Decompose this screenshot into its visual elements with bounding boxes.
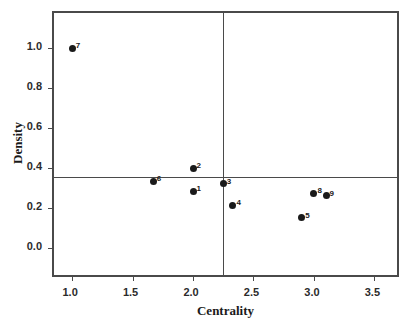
data-point-label-7: 7 [76, 42, 80, 50]
y-tick-0.6 [48, 128, 54, 129]
data-point-label-6: 6 [157, 175, 161, 183]
data-point-2 [190, 165, 197, 172]
data-point-label-3: 3 [227, 178, 231, 186]
data-point-label-4: 4 [236, 199, 240, 207]
scatter-plot-figure: 0.00.20.40.60.81.0 762134589 1.01.52.02.… [0, 0, 414, 334]
x-tick-2.0 [193, 275, 194, 281]
y-tick-label-1.0: 1.0 [8, 40, 42, 53]
data-point-label-5: 5 [305, 212, 309, 220]
x-axis-title: Centrality [52, 303, 399, 319]
data-point-4 [229, 202, 236, 209]
x-tick-1.0 [72, 275, 73, 281]
data-point-3 [220, 180, 227, 187]
data-point-8 [310, 190, 317, 197]
x-tick-label-3.0: 3.0 [292, 286, 332, 298]
plot-area: 762134589 [54, 13, 397, 275]
x-tick-label-2.0: 2.0 [171, 286, 211, 298]
horizontal-reference-line [54, 177, 397, 178]
y-tick-0.2 [48, 208, 54, 209]
data-point-7 [69, 45, 76, 52]
plot-frame: 762134589 [52, 11, 399, 277]
data-point-5 [298, 214, 305, 221]
x-tick-label-3.5: 3.5 [352, 286, 392, 298]
data-point-label-8: 8 [317, 187, 321, 195]
x-tick-2.5 [253, 275, 254, 281]
y-tick-0.8 [48, 88, 54, 89]
y-tick-0.4 [48, 168, 54, 169]
y-axis-title: Density [10, 93, 26, 193]
x-tick-label-1.5: 1.5 [111, 286, 151, 298]
data-point-label-2: 2 [197, 162, 201, 170]
y-tick-label-0.2: 0.2 [8, 200, 42, 213]
x-tick-1.5 [133, 275, 134, 281]
y-tick-label-0.0: 0.0 [8, 240, 42, 253]
data-point-label-1: 1 [197, 185, 201, 193]
x-tick-3.0 [314, 275, 315, 281]
y-tick-label-0.8: 0.8 [8, 80, 42, 93]
data-point-9 [323, 192, 330, 199]
data-point-1 [190, 188, 197, 195]
y-tick-1.0 [48, 48, 54, 49]
data-point-label-9: 9 [330, 190, 334, 198]
vertical-reference-line [223, 13, 224, 275]
x-tick-label-2.5: 2.5 [231, 286, 271, 298]
y-tick-0.0 [48, 248, 54, 249]
x-tick-3.5 [374, 275, 375, 281]
x-tick-label-1.0: 1.0 [50, 286, 90, 298]
data-point-6 [150, 178, 157, 185]
